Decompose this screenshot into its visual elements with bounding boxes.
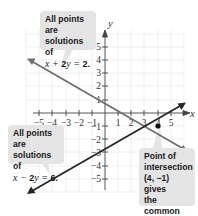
svg-text:5: 5 — [96, 42, 101, 52]
svg-text:−2: −2 — [91, 135, 101, 145]
callout-text: (4, −1) gives — [144, 173, 190, 195]
svg-text:−1: −1 — [91, 122, 101, 132]
callout-text: Point of — [144, 151, 190, 162]
svg-text:−4: −4 — [91, 161, 101, 171]
svg-text:−2: −2 — [74, 118, 84, 128]
callout-text: solutions of — [13, 150, 59, 172]
callout-intersection: Point of intersection (4, −1) gives the … — [139, 148, 195, 206]
intersection-point — [155, 123, 160, 128]
callout-text: solutions of — [45, 36, 91, 58]
equation-label: x + 2y = 2. — [45, 58, 91, 70]
callout-text: All points are — [45, 14, 91, 36]
callout-text: All points are — [13, 128, 59, 150]
callout-line1: All points are solutions of x + 2y = 2. — [40, 11, 96, 50]
callout-line2: All points are solutions of x − 2y = 6. — [8, 125, 64, 164]
callout-text: the common — [144, 195, 190, 216]
svg-text:4: 4 — [96, 55, 101, 65]
svg-text:2: 2 — [96, 81, 101, 91]
equation-label: x − 2y = 6. — [13, 172, 59, 184]
y-axis-label: y — [107, 18, 113, 29]
callout3-pointer — [152, 125, 162, 150]
svg-text:−5: −5 — [91, 174, 101, 184]
svg-text:5: 5 — [169, 118, 174, 128]
x-axis-label: x — [189, 108, 195, 119]
y-axis-arrow-icon — [103, 30, 108, 37]
callout-text: intersection — [144, 162, 190, 173]
svg-text:1: 1 — [116, 118, 121, 128]
svg-text:3: 3 — [96, 68, 101, 78]
x-axis-arrow-icon — [183, 111, 190, 116]
